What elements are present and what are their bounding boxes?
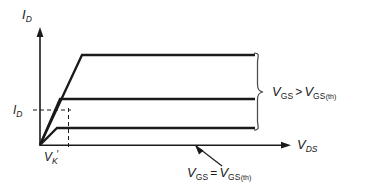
x-axis-label: VDS xyxy=(297,138,317,151)
x-axis-tick-label-vk: VK′ xyxy=(44,151,60,163)
vk-prime: ′ xyxy=(57,149,59,160)
figure-container: ID ID VK′ VDS VGS>VGS(th) VGS=VGS(th) xyxy=(0,0,369,193)
y-axis-tick-label: ID xyxy=(13,104,22,116)
y-axis-label: ID xyxy=(22,8,32,21)
thresh-operator: = xyxy=(208,166,219,180)
sat-operator: > xyxy=(293,85,304,99)
y-axis-label-subscript: D xyxy=(26,14,32,24)
thresh-v2-paren: (th) xyxy=(241,174,252,181)
curve-2 xyxy=(40,99,255,145)
curve-3 xyxy=(40,128,255,145)
y-axis xyxy=(37,27,44,146)
leader-arrowhead-threshold xyxy=(195,145,204,155)
x-axis-label-subscript: DS xyxy=(306,144,318,154)
thresh-v2-subscript: GS xyxy=(228,172,241,182)
sat-v1: V xyxy=(272,84,281,99)
sat-v1-subscript: GS xyxy=(281,91,294,101)
annotation-threshold: VGS=VGS(th) xyxy=(187,166,251,179)
thresh-v1: V xyxy=(187,165,196,180)
x-axis-label-symbol: V xyxy=(297,137,306,152)
thresh-v1-subscript: GS xyxy=(196,172,209,182)
sat-v2-paren: (th) xyxy=(326,93,337,100)
vk-symbol: V xyxy=(44,150,52,164)
brace-saturation-region xyxy=(255,53,264,130)
x-axis xyxy=(40,142,291,149)
sat-v2: V xyxy=(304,84,313,99)
sat-v2-subscript: GS xyxy=(313,91,326,101)
annotation-saturation: VGS>VGS(th) xyxy=(272,85,336,98)
y-tick-subscript: D xyxy=(16,109,22,119)
thresh-v2: V xyxy=(219,165,228,180)
